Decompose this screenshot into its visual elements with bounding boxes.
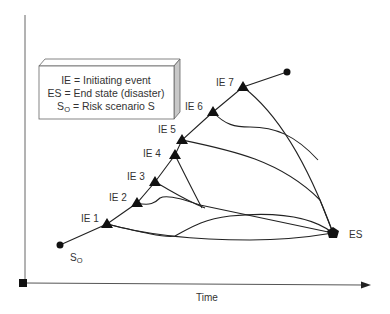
ie3-triangle-icon [149,176,161,186]
end-state-pentagon-icon [327,227,339,238]
ie7-label: IE 7 [216,77,234,88]
x-axis [25,283,362,285]
x-axis-label: Time [196,292,218,303]
origin-square-icon [19,279,27,287]
branch-ie2 [137,196,333,233]
start-label: SO [70,252,83,265]
start-dot-icon [57,242,64,249]
ie6-label: IE 6 [185,101,203,112]
ie4-triangle-icon [169,149,181,159]
legend-line-ie: IE = Initiating event [61,74,151,86]
legend-box: IE = Initiating event ES = End state (di… [39,59,180,119]
branch-ie6 [213,112,318,160]
end-state-label: ES [349,229,363,240]
x-axis-arrow-icon [361,282,371,289]
legend-line-so: SO = Risk scenario S [57,100,155,114]
ie3-label: IE 3 [127,171,145,182]
ie1-triangle-icon [101,218,113,228]
legend-line-es: ES = End state (disaster) [47,87,164,99]
branch-ie5 [182,140,333,233]
ie5-label: IE 5 [158,124,176,135]
ie1-label: IE 1 [81,213,99,224]
end-dot-icon [284,69,291,76]
risk-scenario-diagram: Time IE = Initiating event ES = End stat… [0,0,390,314]
ie4-label: IE 4 [143,148,161,159]
ie2-label: IE 2 [109,192,127,203]
ie6-triangle-icon [207,106,219,116]
